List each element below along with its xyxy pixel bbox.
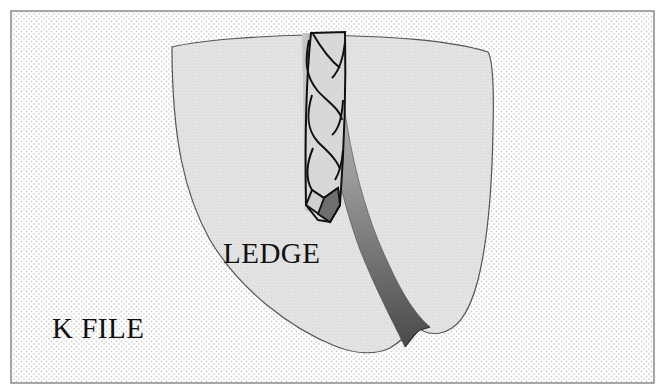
k-file-icon <box>302 32 345 222</box>
k-file-label: K FILE <box>52 314 144 343</box>
diagram-figure: LEDGE K FILE <box>0 0 662 385</box>
ledge-label: LEDGE <box>223 239 321 268</box>
